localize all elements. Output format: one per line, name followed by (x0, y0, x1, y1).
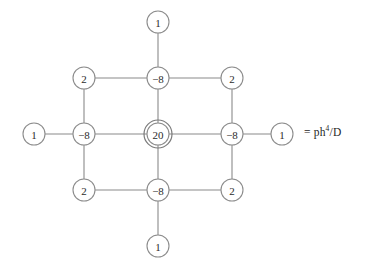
stencil-node-label: 2 (229, 185, 235, 197)
stencil-node-label: 1 (31, 129, 37, 141)
stencil-node-top-center: −8 (147, 67, 169, 89)
stencil-node-label: 1 (155, 241, 161, 253)
stencil-node-label: 2 (81, 185, 87, 197)
stencil-node-label: −8 (226, 129, 238, 141)
stencil-node-label: 2 (229, 73, 235, 85)
stencil-node-label: 1 (279, 129, 285, 141)
stencil-node-top-right: 2 (221, 67, 243, 89)
stencil-node-label: −8 (78, 129, 90, 141)
legend-annotation: =ph4/D (304, 126, 341, 138)
stencil-node-label: −8 (152, 185, 164, 197)
stencil-node-label: 1 (155, 17, 161, 29)
legend-denominator: /D (330, 126, 342, 138)
stencil-node-top-left: 2 (73, 67, 95, 89)
stencil-node-bottom-right: 2 (221, 179, 243, 201)
stencil-node-center: 20 (144, 120, 172, 148)
stencil-node-bottom-left: 2 (73, 179, 95, 201)
stencil-node-mid-left: −8 (73, 123, 95, 145)
stencil-figure: 12−821−820−812−821 =ph4/D (0, 0, 367, 269)
stencil-node-top-outer: 1 (147, 11, 169, 33)
stencil-node-label: 2 (81, 73, 87, 85)
stencil-node-label: −8 (152, 73, 164, 85)
stencil-node-right-outer: 1 (271, 123, 293, 145)
legend-equals-sign: = (304, 126, 311, 138)
stencil-node-bottom-outer: 1 (147, 235, 169, 257)
stencil-node-mid-right: −8 (221, 123, 243, 145)
stencil-node-left-outer: 1 (23, 123, 45, 145)
legend-base-term: ph (314, 126, 326, 138)
stencil-node-bottom-center: −8 (147, 179, 169, 201)
stencil-node-label: 20 (153, 129, 165, 141)
